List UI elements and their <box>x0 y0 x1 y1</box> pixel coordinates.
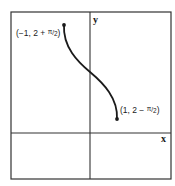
end-point-label: (1, 2 − π/2) <box>120 105 160 116</box>
start-point-label: (−1, 2 + π/2) <box>16 28 61 39</box>
end-label-suffix: ) <box>157 105 160 115</box>
end-label-prefix: (1, 2 − <box>120 105 147 115</box>
x-axis-label: x <box>161 133 166 144</box>
graph-figure: y x (−1, 2 + π/2) (1, 2 − π/2) <box>0 0 175 186</box>
y-axis-label: y <box>93 14 98 25</box>
start-label-prefix: (−1, 2 + <box>16 28 48 38</box>
end-point-marker <box>115 117 119 121</box>
start-label-suffix: ) <box>58 28 61 38</box>
start-point-marker <box>62 23 66 27</box>
